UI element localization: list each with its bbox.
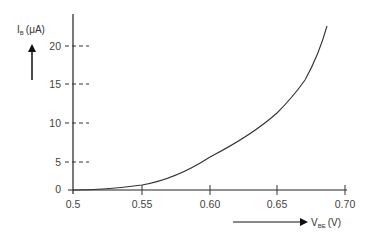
y-tick-label-20: 20 — [49, 40, 61, 52]
y-axis-label: IB(μA) — [17, 24, 45, 36]
y-tick-label-0: 0 — [55, 183, 61, 195]
x-tick-label-0.5: 0.5 — [66, 198, 81, 210]
x-tick-label-0.55: 0.55 — [132, 198, 153, 210]
y-tick-label-5: 5 — [55, 156, 61, 168]
x-axis-label: VBE(V) — [311, 217, 341, 229]
x-tick-label-0.60: 0.60 — [200, 198, 221, 210]
chart-canvas: 0 5 10 15 20 0.5 0.55 0.60 0.65 0.70 IB(… — [0, 0, 373, 239]
y-tick-label-15: 15 — [49, 78, 61, 90]
x-tick-label-0.65: 0.65 — [267, 198, 288, 210]
x-tick-label-0.70: 0.70 — [335, 198, 356, 210]
y-tick-marks — [65, 46, 89, 162]
y-tick-label-10: 10 — [49, 117, 61, 129]
ib-vbe-curve — [73, 26, 327, 190]
